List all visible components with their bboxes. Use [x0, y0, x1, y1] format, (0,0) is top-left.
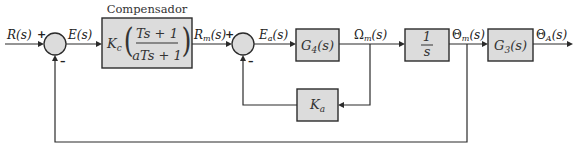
signal-theta-a-label: ΘA(s)	[536, 28, 567, 43]
summing-junction-1	[44, 33, 66, 55]
arrow-into-g4	[290, 41, 296, 47]
sum2-minus-sign: –	[248, 55, 254, 68]
sum2-plus-sign: +	[225, 28, 234, 41]
signal-ea-label: Ea(s)	[258, 28, 288, 43]
signal-e-label: E(s)	[67, 28, 93, 42]
g4-label: G4(s)	[301, 38, 334, 55]
arrow-output	[567, 41, 573, 47]
compensator-right-paren: )	[182, 20, 192, 60]
arrow-into-compensator	[96, 41, 102, 47]
arrow-into-sum2-bottom	[240, 55, 246, 61]
g3-label: G3(s)	[494, 38, 527, 55]
signal-rm-label: Rm(s)	[193, 28, 226, 43]
arrow-into-sum2	[226, 41, 232, 47]
signal-theta-m-label: Θm(s)	[452, 28, 485, 43]
integrator-denominator: s	[424, 44, 431, 59]
integrator-numerator: 1	[423, 29, 431, 44]
arrow-into-ka	[338, 102, 344, 108]
compensator-denominator: aTs + 1	[132, 48, 182, 63]
signal-r-label: R(s)	[6, 28, 32, 42]
sum1-minus-sign: –	[60, 55, 66, 68]
signal-omega-m-label: Ωm(s)	[354, 28, 387, 43]
arrow-into-sum1	[38, 41, 44, 47]
block-diagram: + – + – Compensador Kc ( Ts + 1 aTs + 1 …	[0, 0, 578, 149]
compensator-title: Compensador	[107, 2, 188, 16]
compensator-numerator: Ts + 1	[136, 26, 178, 41]
sum1-plus-sign: +	[37, 28, 46, 41]
arrow-into-integrator	[399, 41, 405, 47]
arrow-into-sum1-bottom	[52, 55, 58, 61]
summing-junction-2	[232, 33, 254, 55]
wire-inner-feedback-tap	[341, 44, 370, 105]
